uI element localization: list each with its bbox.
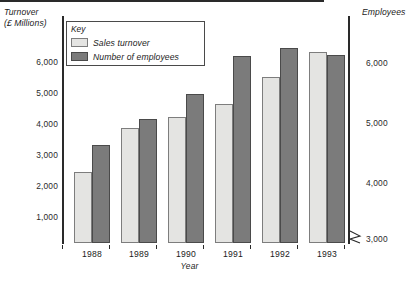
x-axis-title: Year (0, 261, 411, 271)
bar-sales-turnover-1990 (168, 117, 186, 244)
legend-key-box: Key Sales turnover Number of employees (66, 21, 205, 66)
bar-sales-turnover-1993 (309, 52, 327, 244)
bar-number-of-employees-1992 (280, 48, 298, 243)
legend-swatch-number-of-employees (71, 52, 88, 61)
bar-sales-turnover-1988 (74, 172, 92, 244)
x-axis-tick (109, 245, 110, 249)
bars-layer (0, 0, 411, 243)
x-axis-category-1993: 1993 (304, 249, 350, 259)
x-axis-category-1991: 1991 (210, 249, 256, 259)
bar-number-of-employees-1990 (186, 94, 204, 243)
bar-sales-turnover-1992 (262, 77, 280, 243)
x-axis-title-text: Year (180, 261, 198, 271)
legend-item-sales-turnover: Sales turnover (71, 36, 200, 49)
x-axis-tick (250, 245, 251, 249)
x-axis-tick (344, 245, 345, 249)
bar-chart: Turnover (£ Millions) Employees 6,0005,0… (0, 0, 411, 291)
x-axis-tick (203, 245, 204, 249)
x-axis-category-1992: 1992 (257, 249, 303, 259)
x-axis-category-1990: 1990 (163, 249, 209, 259)
bar-number-of-employees-1993 (327, 55, 345, 243)
x-axis-category-1988: 1988 (69, 249, 115, 259)
bar-number-of-employees-1989 (139, 119, 157, 243)
x-axis-tick (62, 245, 63, 249)
legend-label-sales-turnover: Sales turnover (93, 38, 150, 48)
x-axis-category-1989: 1989 (116, 249, 162, 259)
legend-title: Key (71, 24, 200, 35)
legend-label-number-of-employees: Number of employees (93, 52, 179, 62)
x-axis-tick (156, 245, 157, 249)
legend-item-number-of-employees: Number of employees (71, 50, 200, 63)
bar-sales-turnover-1991 (215, 104, 233, 244)
bar-number-of-employees-1991 (233, 56, 251, 243)
x-axis-tick (297, 245, 298, 249)
bar-number-of-employees-1988 (92, 145, 110, 243)
bar-sales-turnover-1989 (121, 128, 139, 243)
legend-swatch-sales-turnover (71, 38, 88, 47)
